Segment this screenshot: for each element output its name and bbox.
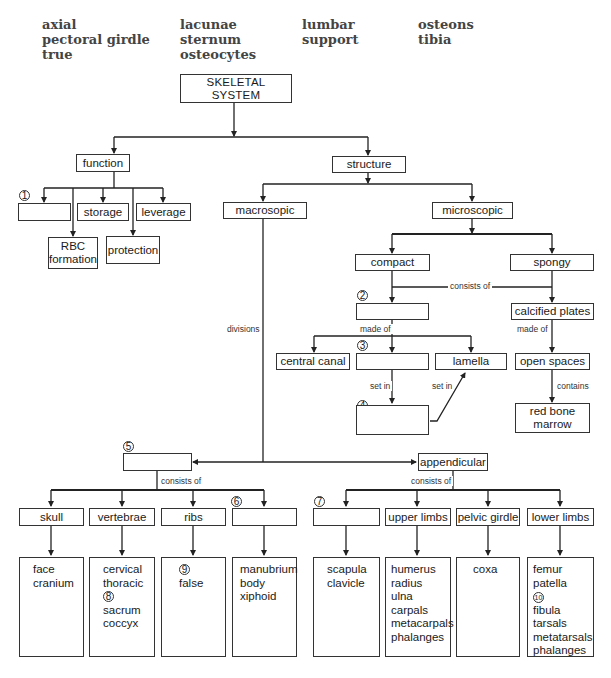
- number-10-badge: 10: [533, 592, 544, 603]
- upper-limbs-box: upper limbs: [385, 508, 451, 526]
- list-item: cervical: [103, 563, 154, 577]
- lower-limbs-box: lower limbs: [527, 508, 594, 526]
- blank-answer-1[interactable]: [18, 203, 71, 221]
- ribs-list: 9 false: [161, 557, 226, 657]
- ribs-box: ribs: [161, 508, 226, 526]
- made-of-label-right: made of: [515, 324, 550, 334]
- blank-answer-5[interactable]: [123, 453, 192, 471]
- blank-answer-8[interactable]: 8: [103, 590, 154, 604]
- list-item: tarsals: [533, 617, 593, 631]
- list-item: body: [240, 577, 296, 591]
- blank-answer-2[interactable]: [356, 303, 429, 320]
- skeletal-system-box: SKELETAL SYSTEM: [180, 74, 292, 103]
- rbc-formation-box: RBC formation: [48, 237, 98, 269]
- skull-box: skull: [19, 508, 84, 526]
- list-item: sacrum: [103, 604, 154, 618]
- blank-answer-3[interactable]: [356, 353, 429, 370]
- list-item: ulna: [391, 590, 450, 604]
- number-7-badge: 7: [314, 496, 325, 507]
- list-item: thoracic: [103, 577, 154, 591]
- pectoral-girdle-list: scapula clavicle: [313, 557, 380, 657]
- number-6-badge: 6: [231, 496, 242, 507]
- list-item: femur: [533, 563, 593, 577]
- upper-limbs-list: humerus radius ulna carpals metacarpals …: [385, 557, 451, 657]
- consists-of-label-appendicular: consists of: [409, 476, 453, 486]
- list-item: manubrium: [240, 563, 296, 577]
- list-item: phalanges: [391, 631, 450, 645]
- number-1-badge: 1: [19, 190, 30, 201]
- consists-of-label: consists of: [448, 281, 492, 291]
- blank-answer-10[interactable]: 10: [533, 590, 593, 604]
- list-item: cranium: [33, 577, 83, 591]
- list-item: false: [179, 577, 225, 591]
- list-item: clavicle: [327, 577, 379, 591]
- pelvic-girdle-list: coxa: [456, 557, 520, 657]
- lamella-box: lamella: [435, 353, 507, 370]
- consists-of-label-axial: consists of: [159, 476, 203, 486]
- calcified-plates-box: calcified plates: [511, 303, 594, 320]
- structure-box: structure: [332, 156, 406, 173]
- sternum-list: manubrium body xiphoid: [232, 557, 297, 657]
- blank-answer-7[interactable]: [313, 508, 380, 526]
- list-item: scapula: [327, 563, 379, 577]
- blank-answer-4[interactable]: [356, 405, 429, 435]
- protection-box: protection: [106, 236, 160, 264]
- set-in-label-1: set in: [368, 381, 392, 391]
- set-in-label-2: set in: [430, 381, 454, 391]
- microscopic-box: microscopic: [432, 202, 513, 219]
- list-item: metacarpals: [391, 617, 450, 631]
- list-item: metatarsals: [533, 631, 593, 645]
- number-9-badge: 9: [179, 564, 190, 575]
- number-2-badge: 2: [357, 290, 368, 301]
- skull-list: face cranium: [19, 557, 84, 657]
- list-item: coccyx: [103, 617, 154, 631]
- list-item: face: [33, 563, 83, 577]
- macroscopic-box: macrosopic: [223, 202, 307, 219]
- red-bone-marrow-box: red bone marrow: [515, 403, 590, 433]
- central-canal-box: central canal: [276, 353, 350, 370]
- vertebrae-list: cervical thoracic 8 sacrum coccyx: [89, 557, 155, 657]
- compact-box: compact: [355, 254, 430, 271]
- number-5-badge: 5: [123, 441, 134, 452]
- storage-box: storage: [77, 203, 129, 221]
- made-of-label-left: made of: [358, 324, 393, 334]
- spongy-box: spongy: [510, 254, 594, 271]
- divisions-label: divisions: [225, 324, 262, 334]
- list-item: xiphoid: [240, 590, 296, 604]
- list-item: humerus: [391, 563, 450, 577]
- vertebrae-box: vertebrae: [89, 508, 155, 526]
- list-item: carpals: [391, 604, 450, 618]
- blank-answer-9[interactable]: 9: [179, 563, 225, 577]
- blank-answer-6[interactable]: [232, 508, 297, 526]
- contains-label: contains: [555, 381, 591, 391]
- function-box: function: [76, 154, 130, 172]
- list-item: radius: [391, 577, 450, 591]
- appendicular-box: appendicular: [418, 453, 488, 471]
- lower-limbs-list: femur patella 10 fibula tarsals metatars…: [527, 557, 594, 657]
- list-item: fibula: [533, 604, 593, 618]
- number-8-badge: 8: [103, 591, 114, 602]
- leverage-box: leverage: [136, 203, 191, 221]
- list-item: patella: [533, 577, 593, 591]
- pelvic-girdle-box: pelvic girdle: [456, 508, 520, 526]
- number-3-badge: 3: [357, 340, 368, 351]
- list-item: coxa: [473, 563, 519, 577]
- open-spaces-box: open spaces: [515, 353, 590, 370]
- list-item: phalanges: [533, 644, 593, 658]
